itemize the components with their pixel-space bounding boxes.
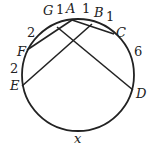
label-b: B bbox=[93, 5, 104, 20]
label-d: D bbox=[135, 86, 147, 101]
label-f: F bbox=[16, 44, 27, 59]
arc-bc: 1 bbox=[106, 9, 114, 24]
label-g: G bbox=[43, 3, 53, 18]
label-a: A bbox=[65, 1, 75, 16]
arc-cd: 6 bbox=[134, 44, 142, 59]
label-e: E bbox=[9, 78, 20, 93]
arc-ef: 2 bbox=[10, 61, 18, 76]
arc-ga: 1 bbox=[56, 2, 64, 17]
arc-ab: 1 bbox=[82, 1, 90, 16]
label-c: C bbox=[116, 25, 126, 40]
arc-de: x bbox=[74, 131, 82, 146]
circle-diagram: G 1 A 1 B 1 C 6 D 2 F 2 E x bbox=[0, 0, 153, 146]
arc-fg: 2 bbox=[27, 25, 35, 40]
